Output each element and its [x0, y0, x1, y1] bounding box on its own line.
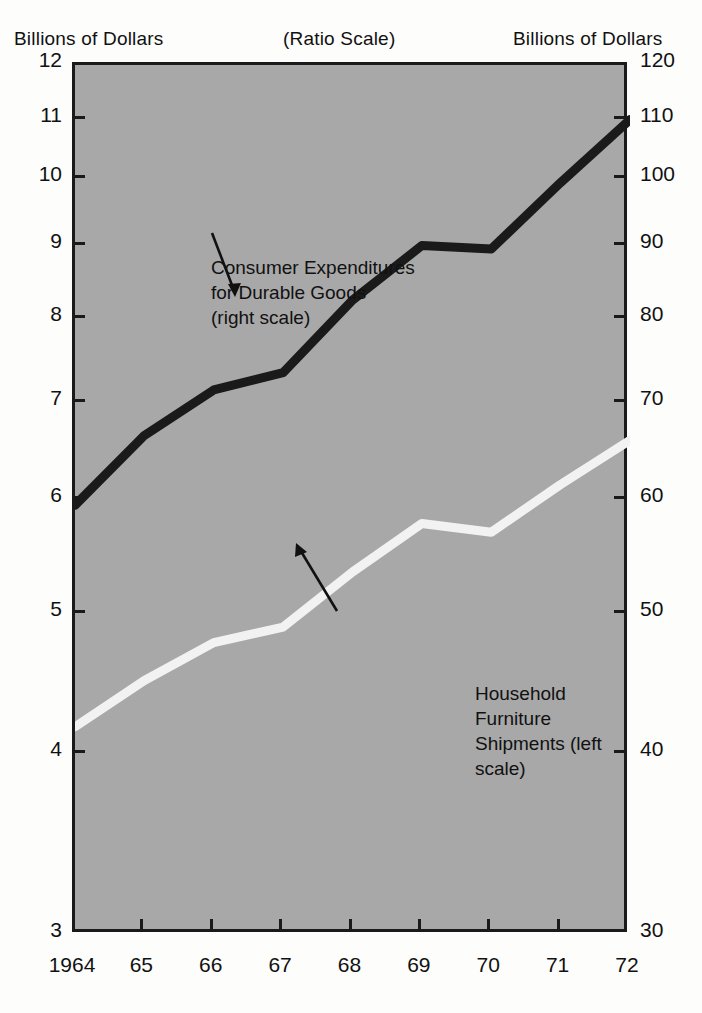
right-tickmark — [614, 315, 627, 318]
x-tickmark — [557, 919, 560, 932]
x-axis-tick-69: 69 — [407, 953, 430, 977]
left-axis-tick-11: 11 — [6, 103, 62, 127]
right-axis-title: Billions of Dollars — [513, 28, 663, 50]
left-tickmark — [72, 399, 85, 402]
left-axis-tick-4: 4 — [6, 737, 62, 761]
left-tickmark — [72, 610, 85, 613]
plot-area: Consumer Expenditures for Durable Goods … — [72, 62, 627, 932]
x-axis-tick-70: 70 — [477, 953, 500, 977]
left-axis-tick-12: 12 — [6, 48, 62, 72]
x-tickmark — [487, 919, 490, 932]
x-axis-tick-67: 67 — [268, 953, 291, 977]
x-axis-tick-1964: 1964 — [49, 953, 96, 977]
left-axis-tick-9: 9 — [6, 229, 62, 253]
right-tickmark — [614, 399, 627, 402]
right-axis-tick-70: 70 — [640, 386, 702, 410]
left-tickmark — [72, 242, 85, 245]
left-axis-tick-8: 8 — [6, 302, 62, 326]
series-canvas — [75, 65, 630, 935]
x-tickmark — [140, 919, 143, 932]
right-tickmark — [614, 116, 627, 119]
left-axis-tick-3: 3 — [6, 918, 62, 942]
right-axis-tick-80: 80 — [640, 302, 702, 326]
right-tickmark — [614, 610, 627, 613]
left-tickmark — [72, 315, 85, 318]
right-tickmark — [614, 496, 627, 499]
right-axis-tick-110: 110 — [640, 103, 702, 127]
x-tickmark — [210, 919, 213, 932]
x-axis-tick-66: 66 — [199, 953, 222, 977]
left-axis-tick-6: 6 — [6, 483, 62, 507]
left-tickmark — [72, 175, 85, 178]
scale-type-label: (Ratio Scale) — [283, 28, 395, 50]
x-axis-tick-68: 68 — [338, 953, 361, 977]
right-axis-tick-90: 90 — [640, 229, 702, 253]
x-tickmark — [418, 919, 421, 932]
x-axis-tick-71: 71 — [546, 953, 569, 977]
right-axis-tick-100: 100 — [640, 162, 702, 186]
right-axis-tick-120: 120 — [640, 48, 702, 72]
left-axis-tick-7: 7 — [6, 386, 62, 410]
left-tickmark — [72, 116, 85, 119]
consumer-expenditures-annotation: Consumer Expenditures for Durable Goods … — [211, 255, 415, 330]
x-axis-tick-72: 72 — [615, 953, 638, 977]
left-tickmark — [72, 750, 85, 753]
left-axis-title: Billions of Dollars — [14, 28, 164, 50]
right-axis-tick-60: 60 — [640, 483, 702, 507]
x-axis-tick-65: 65 — [130, 953, 153, 977]
left-axis-tick-5: 5 — [6, 597, 62, 621]
right-axis-tick-30: 30 — [640, 918, 702, 942]
right-tickmark — [614, 750, 627, 753]
left-tickmark — [72, 496, 85, 499]
left-axis-tick-10: 10 — [6, 162, 62, 186]
right-tickmark — [614, 242, 627, 245]
right-tickmark — [614, 175, 627, 178]
x-tickmark — [349, 919, 352, 932]
x-tickmark — [279, 919, 282, 932]
household-furniture-annotation: Household Furniture Shipments (left scal… — [475, 681, 624, 781]
right-axis-tick-50: 50 — [640, 597, 702, 621]
chart-page: Billions of Dollars (Ratio Scale) Billio… — [0, 0, 702, 1013]
right-axis-tick-40: 40 — [640, 737, 702, 761]
